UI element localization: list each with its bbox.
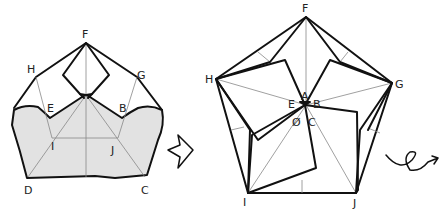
label-i: I [243,196,246,209]
label-b: B [313,98,321,111]
label-a: A [301,90,309,103]
label-f: F [82,28,88,41]
label-f: F [302,2,308,15]
label-j: J [110,144,114,157]
label-d: D [24,184,32,197]
left-figure: F H G E B I J D C [12,28,163,197]
label-h: H [27,63,35,76]
loop-arrow-icon [386,152,438,171]
label-g: G [395,78,404,91]
label-c: C [308,116,316,129]
label-d: Ø [292,116,301,129]
origami-diagram: F H G E B I J D C F H G A E [0,0,443,211]
label-e: E [288,98,295,111]
label-b: B [119,102,127,115]
label-h: H [205,73,213,86]
label-e: E [47,102,54,115]
right-figure: F H G A E B Ø C I J [205,2,404,210]
label-g: G [137,69,146,82]
label-c: C [141,184,149,197]
label-i: I [51,140,54,153]
hollow-right-arrow-icon [168,135,193,168]
label-j: J [352,197,356,210]
